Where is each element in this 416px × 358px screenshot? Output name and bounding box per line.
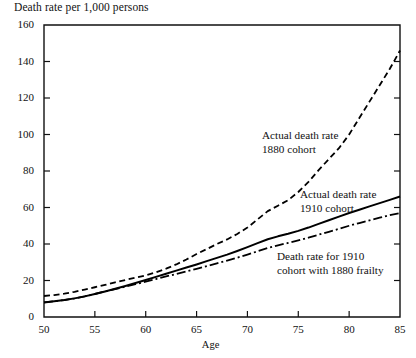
annotation-1910-cohort-line1: Actual death rate xyxy=(300,188,376,202)
y-tick-label: 140 xyxy=(4,55,34,67)
x-tick-label: 60 xyxy=(131,323,161,335)
y-tick-label: 60 xyxy=(4,201,34,213)
y-tick-label: 20 xyxy=(4,274,34,286)
y-tick-label: 120 xyxy=(4,91,34,103)
x-tick-label: 55 xyxy=(80,323,110,335)
annotation-1910-frailty: Death rate for 1910cohort with 1880 frai… xyxy=(277,250,384,277)
annotation-1910-cohort-line2: 1910 cohort xyxy=(300,202,376,216)
annotation-1910-frailty-line2: cohort with 1880 frailty xyxy=(277,264,384,278)
chart-plot-svg xyxy=(0,0,416,358)
y-tick-label: 40 xyxy=(4,237,34,249)
x-tick-label: 70 xyxy=(232,323,262,335)
annotation-1910-frailty-line1: Death rate for 1910 xyxy=(277,250,384,264)
annotation-1880-cohort-line2: 1880 cohort xyxy=(262,143,338,157)
chart-figure: Death rate per 1,000 persons 02040608010… xyxy=(0,0,416,358)
y-tick-label: 100 xyxy=(4,128,34,140)
x-tick-label: 50 xyxy=(29,323,59,335)
annotation-1880-cohort-line1: Actual death rate xyxy=(262,129,338,143)
x-tick-label: 75 xyxy=(283,323,313,335)
x-tick-label: 85 xyxy=(385,323,415,335)
x-axis-label: Age xyxy=(202,339,220,350)
x-tick-label: 65 xyxy=(182,323,212,335)
x-tick-label: 80 xyxy=(334,323,364,335)
y-tick-label: 0 xyxy=(4,310,34,322)
annotation-1880-cohort: Actual death rate1880 cohort xyxy=(262,129,338,156)
annotation-1910-cohort: Actual death rate1910 cohort xyxy=(300,188,376,215)
y-tick-label: 80 xyxy=(4,164,34,176)
y-tick-label: 160 xyxy=(4,18,34,30)
